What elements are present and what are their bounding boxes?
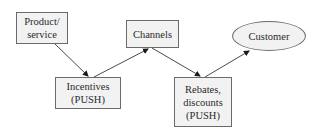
node-product-service: Product/ service [16,12,68,44]
node-label-line: discounts [183,96,223,109]
edge-rebates-to-customer [205,51,249,77]
node-channels: Channels [126,20,179,48]
node-label-line: Rebates, [185,83,221,96]
node-label-line: service [27,28,57,41]
node-label-line: (PUSH) [71,93,105,106]
node-label-line: Channels [133,28,172,41]
node-label-line: Incentives [66,80,109,93]
node-label-line: (PUSH) [186,109,220,122]
edge-channels-to-rebates [152,48,200,76]
node-customer: Customer [232,21,306,51]
node-rebates-discounts-push: Rebates, discounts (PUSH) [174,77,232,127]
edge-product-to-incentives [55,44,88,76]
node-label-line: Customer [249,30,290,43]
node-label-line: Product/ [24,15,60,28]
edge-incentives-to-channels [94,49,148,77]
node-incentives-push: Incentives (PUSH) [55,77,121,109]
flow-diagram: Product/ service Channels Customer Incen… [0,0,322,133]
